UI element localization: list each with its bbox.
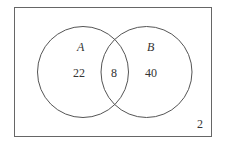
set-a-only-count: 22 [73, 66, 85, 80]
intersection-count: 8 [111, 66, 117, 80]
venn-diagram: A B 22 8 40 2 [0, 0, 226, 142]
set-b-only-count: 40 [145, 66, 157, 80]
universe-outside-count: 2 [197, 117, 203, 131]
set-b-label: B [147, 40, 155, 54]
set-a-label: A [76, 40, 85, 54]
